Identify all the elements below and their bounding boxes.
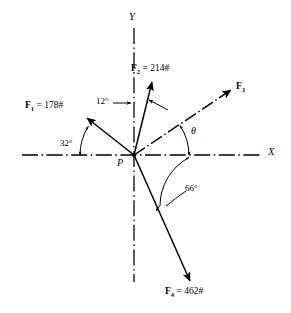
vector-f2 bbox=[134, 82, 152, 155]
origin-label: P bbox=[117, 158, 123, 168]
leader-66 bbox=[166, 191, 186, 206]
force-vector-diagram: X Y P F1 = 178# F2 = 214# F3 F4 = 462# 3… bbox=[0, 0, 291, 313]
vector-f2-label: F2 = 214# bbox=[131, 64, 169, 75]
vector-f4 bbox=[134, 155, 190, 281]
vector-f4-label: F4 = 462# bbox=[165, 287, 203, 298]
vector-f3-subscript: 3 bbox=[242, 86, 245, 93]
angle-12-label: 12° bbox=[96, 97, 109, 106]
origin-point bbox=[132, 153, 136, 157]
y-axis-label: Y bbox=[129, 12, 135, 23]
vector-f1-label: F1 = 178# bbox=[25, 101, 63, 112]
leader-12-to-f2 bbox=[149, 100, 168, 110]
angle-theta-label: θ bbox=[191, 126, 196, 136]
vector-f1 bbox=[87, 118, 134, 155]
arc-theta bbox=[180, 126, 189, 156]
vector-f3-label: F3 bbox=[236, 82, 245, 93]
angle-66-label: 66° bbox=[185, 184, 198, 193]
x-axis-label: X bbox=[268, 147, 274, 158]
diagram-canvas bbox=[0, 0, 291, 313]
vector-f3 bbox=[134, 90, 231, 155]
vector-f2-value: = 214# bbox=[140, 63, 169, 73]
vector-f1-value: = 178# bbox=[34, 100, 63, 110]
arc-32 bbox=[80, 126, 88, 155]
vector-f4-value: = 462# bbox=[174, 286, 203, 296]
angle-32-label: 32° bbox=[60, 139, 73, 148]
